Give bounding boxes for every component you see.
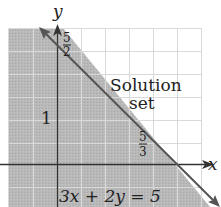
- y-intercept-label: 5 2: [63, 31, 71, 59]
- shaded-region: [8, 28, 210, 207]
- equation-label: 3x + 2y = 5: [59, 186, 161, 206]
- x-intercept-numerator: 5: [139, 130, 147, 144]
- inequality-graph: y x 5 2 5 3 1 Solution set 3x + 2y = 5: [0, 0, 221, 207]
- y-axis-label: y: [52, 1, 63, 21]
- solution-set-label-line1: Solution: [110, 75, 182, 95]
- y-tick-1: 1: [41, 108, 52, 128]
- y-intercept-denominator: 2: [63, 45, 71, 59]
- x-axis-label: x: [208, 154, 218, 174]
- y-intercept-numerator: 5: [63, 31, 71, 45]
- x-intercept-denominator: 3: [139, 145, 147, 159]
- x-intercept-label: 5 3: [139, 130, 147, 159]
- solution-set-label-line2: set: [129, 93, 155, 113]
